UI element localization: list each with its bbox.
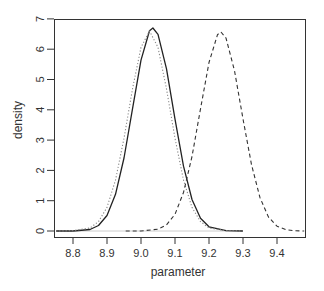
y-tick-label: 0 <box>34 228 46 234</box>
x-tick-label: 9.2 <box>201 247 216 259</box>
y-axis: 01234567 <box>34 16 54 234</box>
curve-solid <box>56 28 243 231</box>
x-axis-label: parameter <box>151 265 206 279</box>
curve-dashed <box>126 32 305 231</box>
y-tick-label: 5 <box>34 76 46 82</box>
y-tick-label: 7 <box>34 16 46 22</box>
density-plot: 8.88.99.09.19.29.39.4 01234567 parameter… <box>0 0 324 291</box>
x-tick-label: 9.1 <box>167 247 182 259</box>
y-tick-label: 1 <box>34 198 46 204</box>
y-tick-label: 3 <box>34 137 46 143</box>
y-tick-label: 4 <box>34 107 46 113</box>
x-tick-label: 9.4 <box>269 247 284 259</box>
series-layer <box>56 28 304 231</box>
x-tick-label: 8.8 <box>65 247 80 259</box>
plot-area <box>55 20 306 238</box>
y-tick-label: 2 <box>34 167 46 173</box>
x-tick-label: 8.9 <box>99 247 114 259</box>
x-axis: 8.88.99.09.19.29.39.4 <box>65 238 284 259</box>
x-tick-label: 9.0 <box>133 247 148 259</box>
curve-dotted <box>56 31 243 231</box>
y-axis-label: density <box>11 101 25 139</box>
x-tick-label: 9.3 <box>235 247 250 259</box>
y-tick-label: 6 <box>34 46 46 52</box>
plot-frame <box>55 20 306 238</box>
